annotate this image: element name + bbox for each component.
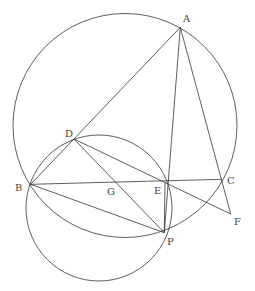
geometry-diagram: ABCDEFGP (0, 0, 255, 291)
segment-AF (180, 27, 230, 214)
label-A: A (182, 13, 191, 24)
segment-BP (31, 184, 165, 232)
segment-AP (164, 27, 180, 232)
label-P: P (167, 236, 174, 247)
segments (31, 27, 231, 232)
label-B: B (15, 182, 22, 193)
segment-DF (74, 139, 231, 214)
circle-BDP (26, 135, 172, 281)
label-E: E (154, 185, 161, 196)
label-D: D (65, 128, 73, 139)
point-labels: ABCDEFGP (15, 13, 241, 247)
segment-DP (74, 139, 164, 233)
label-C: C (227, 175, 235, 186)
segment-BC (31, 179, 222, 184)
label-F: F (234, 216, 241, 227)
segment-AB (31, 27, 181, 184)
label-G: G (107, 186, 115, 197)
circumcircle-ABC (13, 14, 237, 238)
circles (13, 14, 237, 282)
